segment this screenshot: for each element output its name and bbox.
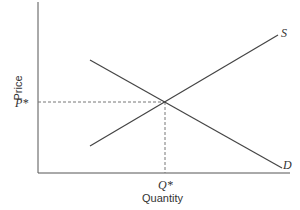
- supply-curve: [90, 35, 278, 146]
- x-axis-label: Quantity: [142, 192, 183, 204]
- demand-curve-label: D: [283, 158, 292, 173]
- equilibrium-price-label: P*: [15, 96, 28, 111]
- supply-curve-label: S: [281, 26, 287, 41]
- equilibrium-quantity-label: Q*: [158, 178, 173, 193]
- demand-curve: [90, 60, 282, 168]
- supply-demand-diagram: [0, 0, 300, 210]
